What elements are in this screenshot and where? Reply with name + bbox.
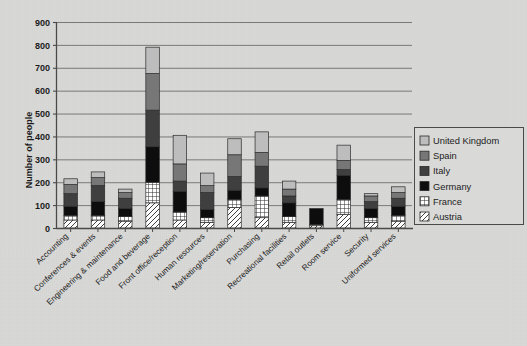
bar-stack xyxy=(173,135,187,228)
bar-segment xyxy=(392,221,406,228)
legend-label: France xyxy=(433,197,462,207)
bar-segment xyxy=(64,185,78,194)
bar-segment xyxy=(255,188,268,196)
bar-segment xyxy=(228,155,242,177)
bar-segment xyxy=(337,160,351,169)
x-axis-label: Uniformed services xyxy=(340,232,397,286)
bar-segment xyxy=(255,218,268,228)
bar-segment xyxy=(392,187,406,193)
bar-segment xyxy=(255,196,268,218)
legend-swatch xyxy=(420,136,429,145)
legend-label: Spain xyxy=(433,151,457,161)
legend-swatch xyxy=(420,182,429,191)
y-tick-label: 600 xyxy=(35,86,50,96)
bar-segment xyxy=(228,199,242,207)
legend-label: Italy xyxy=(433,166,450,176)
bar-segment xyxy=(364,209,378,218)
bar-segment xyxy=(173,212,187,220)
bar-segment xyxy=(64,220,78,228)
bar-segment xyxy=(173,220,187,228)
bar-stack xyxy=(364,194,378,228)
bar-segment xyxy=(337,170,351,176)
bar-segment xyxy=(91,172,105,178)
bar-segment xyxy=(228,139,242,155)
y-tick-label: 0 xyxy=(45,224,50,234)
bar-segment xyxy=(228,177,242,191)
bar-segment xyxy=(146,182,160,203)
bar-segment xyxy=(282,217,296,223)
bar-segment xyxy=(119,198,132,208)
bar-segment xyxy=(119,209,132,217)
bar-segment xyxy=(255,152,268,166)
bar-segment xyxy=(282,222,296,228)
bar-segment xyxy=(310,209,324,225)
bar-segment xyxy=(282,181,296,189)
legend-label: Austria xyxy=(433,212,463,222)
y-tick-label: 100 xyxy=(35,201,50,211)
bar-segment xyxy=(146,47,160,73)
y-axis-ticks: 0100200300400500600700800900 xyxy=(35,18,57,234)
chart-legend: United KingdomSpainItalyGermanyFranceAus… xyxy=(415,128,524,225)
bar-segment xyxy=(392,193,406,199)
bar-segment xyxy=(255,132,268,153)
bar-stack xyxy=(228,139,242,228)
bar-stack xyxy=(200,173,214,228)
legend-swatch xyxy=(420,197,429,206)
bar-segment xyxy=(200,186,214,193)
y-tick-label: 500 xyxy=(35,109,50,119)
bar-segment xyxy=(200,210,214,218)
x-axis-category-labels: AccountingConferences & eventsEngineerin… xyxy=(32,231,397,307)
bar-segment xyxy=(146,74,160,111)
bar-segment xyxy=(392,215,406,221)
bar-segment xyxy=(228,207,242,228)
bar-segment xyxy=(64,179,78,185)
bar-segment xyxy=(146,203,160,228)
bar-segment xyxy=(146,110,160,147)
bar-segment xyxy=(91,220,105,228)
bar-stack xyxy=(119,189,132,228)
stacked-bar-chart: 0100200300400500600700800900 AccountingC… xyxy=(0,0,527,346)
bar-segment xyxy=(364,202,378,209)
legend-label: United Kingdom xyxy=(433,136,499,146)
bar-segment xyxy=(119,221,132,228)
bar-segment xyxy=(255,166,268,188)
bar-segment xyxy=(392,206,406,215)
bar-stack xyxy=(146,47,160,228)
bar-segment xyxy=(91,202,105,216)
legend-swatch xyxy=(420,151,429,160)
bar-segment xyxy=(119,189,132,192)
bar-segment xyxy=(337,199,351,214)
bar-segment xyxy=(364,218,378,223)
bar-segment xyxy=(200,218,214,223)
bar-segment xyxy=(200,193,214,210)
bar-segment xyxy=(146,147,160,182)
y-tick-label: 300 xyxy=(35,155,50,165)
bar-segment xyxy=(337,175,351,199)
y-tick-label: 900 xyxy=(35,18,50,28)
bar-segment xyxy=(119,217,132,222)
bar-segment xyxy=(337,214,351,228)
bar-segment xyxy=(64,206,78,215)
bar-segment xyxy=(173,135,187,164)
bar-segment xyxy=(364,222,378,228)
bar-segment xyxy=(392,198,406,206)
bar-stack xyxy=(64,179,78,228)
legend-label: Germany xyxy=(433,182,472,192)
bar-segment xyxy=(364,196,378,202)
bars-group xyxy=(64,47,405,232)
bar-segment xyxy=(200,173,214,186)
y-tick-label: 200 xyxy=(35,178,50,188)
bar-segment xyxy=(337,145,351,160)
bar-segment xyxy=(173,181,187,191)
legend-swatch xyxy=(420,212,429,221)
x-axis-label: Human resources xyxy=(153,232,206,283)
bar-segment xyxy=(173,191,187,212)
bar-stack xyxy=(392,187,406,228)
bar-stack xyxy=(255,132,268,228)
bar-segment xyxy=(282,196,296,203)
bar-segment xyxy=(64,215,78,220)
bar-stack xyxy=(282,181,296,228)
y-tick-label: 400 xyxy=(35,132,50,142)
bar-segment xyxy=(91,215,105,220)
bar-stack xyxy=(337,145,351,228)
